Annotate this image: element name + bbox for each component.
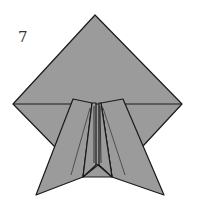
origami-figure	[0, 0, 202, 210]
diamond-base	[13, 15, 182, 165]
